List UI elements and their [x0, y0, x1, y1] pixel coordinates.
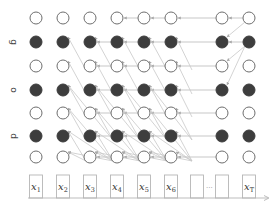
hidden-node-filled: [216, 130, 228, 142]
hidden-node: [138, 60, 150, 72]
hidden-node-filled: [216, 84, 228, 96]
hidden-node-filled: [84, 84, 96, 96]
row-labels: god: [9, 39, 19, 139]
hidden-node: [243, 12, 255, 24]
hidden-node-filled: [30, 130, 42, 142]
hidden-node: [30, 60, 42, 72]
hidden-node: [84, 12, 96, 24]
hidden-node: [111, 151, 123, 163]
input-box: [216, 175, 229, 198]
hidden-node: [30, 151, 42, 163]
skip-edge: [227, 46, 245, 61]
row-label-d: d: [9, 133, 19, 139]
hidden-node: [216, 12, 228, 24]
hidden-node-filled: [138, 130, 150, 142]
hidden-node: [165, 107, 177, 119]
hidden-node-filled: [111, 130, 123, 142]
hidden-node-filled: [84, 130, 96, 142]
hidden-node-filled: [111, 36, 123, 48]
hidden-node-filled: [165, 36, 177, 48]
hidden-node: [216, 107, 228, 119]
hidden-node-filled: [165, 84, 177, 96]
hidden-node-filled: [138, 84, 150, 96]
skip-edge: [68, 37, 86, 70]
skip-edge: [227, 46, 245, 85]
hidden-node: [243, 60, 255, 72]
hidden-node: [30, 107, 42, 119]
hidden-node: [243, 151, 255, 163]
hidden-node: [111, 60, 123, 72]
hidden-node-filled: [216, 36, 228, 48]
hidden-node-filled: [138, 36, 150, 48]
hidden-node-filled: [30, 84, 42, 96]
hidden-node-filled: [30, 36, 42, 48]
hidden-node-filled: [165, 130, 177, 142]
hidden-node: [57, 60, 69, 72]
hidden-node-filled: [111, 84, 123, 96]
hidden-node-filled: [243, 36, 255, 48]
hidden-node: [165, 60, 177, 72]
row-label-g: g: [9, 39, 19, 45]
ellipsis: ...: [206, 182, 213, 190]
hidden-node: [57, 151, 69, 163]
hidden-node: [57, 12, 69, 24]
hidden-node-filled: [57, 84, 69, 96]
input-sequence: x1x2x3x4x5x6xT...: [30, 175, 256, 198]
hidden-node: [57, 107, 69, 119]
hidden-node-filled: [243, 84, 255, 96]
hidden-node: [84, 151, 96, 163]
hidden-node: [111, 12, 123, 24]
hidden-node-filled: [243, 130, 255, 142]
hidden-node: [165, 12, 177, 24]
row-label-o: o: [9, 87, 19, 93]
hidden-node-filled: [57, 130, 69, 142]
hidden-node-filled: [84, 36, 96, 48]
node-grid: [30, 12, 255, 163]
hidden-node-filled: [57, 36, 69, 48]
hidden-node: [30, 12, 42, 24]
recurrent-network-diagram: x1x2x3x4x5x6xT... god: [0, 0, 278, 211]
hidden-node: [138, 12, 150, 24]
hidden-node: [138, 107, 150, 119]
hidden-node: [111, 107, 123, 119]
hidden-node: [84, 107, 96, 119]
hidden-node: [165, 151, 177, 163]
hidden-node: [216, 151, 228, 163]
hidden-node: [138, 151, 150, 163]
hidden-node: [84, 60, 96, 72]
input-box-empty: [191, 175, 204, 198]
hidden-node: [216, 60, 228, 72]
hidden-node: [243, 107, 255, 119]
skip-edge: [227, 22, 245, 37]
